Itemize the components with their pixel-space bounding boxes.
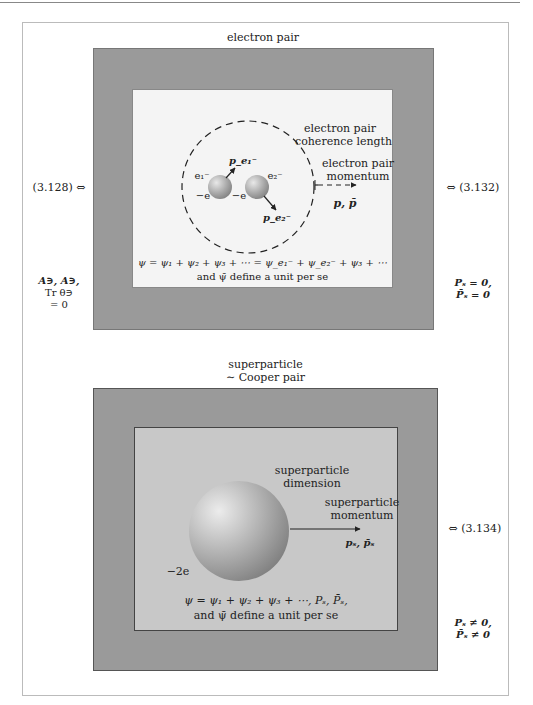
superparticle-charge: −2e [163, 565, 193, 578]
superparticle-momentum-symbol: pₛ, p̄ₛ [335, 536, 385, 549]
electron-2-label: e₂⁻ [263, 169, 287, 182]
superparticle-sphere [189, 481, 289, 581]
electron-1-momentum: p_e₁⁻ [228, 154, 258, 167]
coherence-length-label: electron pair coherence length [295, 122, 385, 148]
ref-3-132: ⇔ (3.132) [440, 181, 506, 194]
pair-momentum-symbol: p, p̄ [320, 197, 370, 210]
electron-1-momentum-arrow [226, 168, 235, 178]
electron-2-charge: −e [228, 189, 250, 202]
superparticle-caption: and ψ̄ define a unit per se [134, 609, 398, 622]
electron-pair-caption: and ψ̄ define a unit per se [132, 270, 393, 283]
ref-3-128: (3.128) ⇔ [28, 181, 90, 194]
electron-1-label: e₁⁻ [190, 169, 214, 182]
superparticle-title: superparticle ∼ Cooper pair [93, 358, 438, 384]
left-condition-electron-pair: A∋, A∋, Tr θ∋ = 0 [28, 275, 90, 311]
electron-2-momentum: p_e₂⁻ [262, 211, 292, 224]
ref-3-134: ⇔ (3.134) [440, 522, 510, 535]
electron-pair-equation: ψ = ψ₁ + ψ₂ + ψ₃ + ⋯ = ψ_e₁⁻ + ψ_e₂⁻ + ψ… [132, 256, 393, 269]
right-condition-superparticle: Pₛ ≠ 0, P̄ₛ ≠ 0 [440, 617, 506, 641]
electron-2-momentum-arrow [264, 196, 276, 210]
right-condition-electron-pair: Pₛ = 0, P̄ₛ = 0 [440, 277, 506, 301]
superparticle-momentum-label: superparticle momentum [322, 496, 402, 522]
electron-1-charge: −e [192, 189, 214, 202]
superparticle-dimension-label: superparticle dimension [272, 464, 352, 490]
superparticle-equation: ψ = ψ₁ + ψ₂ + ψ₃ + ⋯, Pₛ, P̄ₛ, [134, 594, 398, 607]
pair-momentum-label: electron pair momentum [318, 157, 398, 183]
